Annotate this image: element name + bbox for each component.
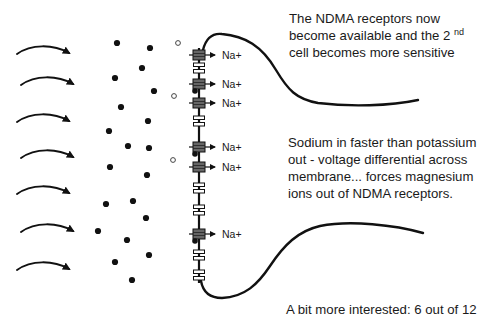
sodium-ion-dot	[124, 237, 130, 243]
sodium-ion-dot	[114, 40, 120, 46]
potassium-ion-circle	[176, 41, 181, 46]
note-top-line-2: become available and the 2 nd	[289, 27, 464, 44]
magnesium-ion-circles	[171, 41, 181, 163]
inflow-arrow-icon	[17, 46, 69, 54]
magnesium-ion-dot	[192, 88, 198, 94]
inflow-arrow-icon	[21, 224, 73, 232]
note-middle-line-2: out - voltage differential across	[288, 151, 476, 168]
note-top-line-2-text: become available and the 2	[289, 28, 454, 43]
ion-dots	[95, 40, 157, 283]
magnesium-ion-dot	[192, 238, 198, 244]
sodium-ion-dot	[145, 118, 151, 124]
ordinal-suffix: nd	[454, 27, 464, 37]
open-channel: Na+	[189, 97, 242, 109]
sodium-label: Na+	[222, 228, 242, 240]
note-top-line-1: The NDMA receptors now	[289, 10, 464, 27]
membrane-channels: Na+Na+Na+Na+Na+Na+	[189, 49, 242, 280]
note-bottom-line-1: A bit more interested: 6 out of 12	[286, 301, 477, 318]
sodium-ion-dot	[129, 277, 135, 283]
inflow-arrows	[17, 46, 73, 270]
potassium-ion-circle	[172, 94, 177, 99]
sodium-label: Na+	[222, 141, 242, 153]
inflow-arrow-icon	[17, 262, 69, 270]
sodium-ion-dot	[103, 201, 109, 207]
note-ndma-available: The NDMA receptors now become available …	[289, 10, 464, 61]
sodium-label: Na+	[222, 97, 242, 109]
sodium-ion-dot	[95, 228, 101, 234]
note-sodium-voltage: Sodium in faster than potassium out - vo…	[288, 134, 476, 202]
sodium-label: Na+	[222, 161, 242, 173]
sodium-ion-dot	[118, 104, 124, 110]
open-channel: Na+	[189, 161, 242, 173]
sodium-ion-dot	[130, 198, 136, 204]
sodium-ion-dot	[144, 172, 150, 178]
sodium-ion-dot	[146, 252, 152, 258]
open-channel: Na+	[189, 228, 242, 244]
sodium-ion-dot	[107, 164, 113, 170]
note-middle-line-4: ions out of NDMA receptors.	[288, 185, 476, 202]
sodium-label: Na+	[222, 78, 242, 90]
sodium-label: Na+	[222, 49, 242, 61]
inflow-arrow-icon	[21, 77, 73, 85]
sodium-ion-dot	[147, 45, 153, 51]
inflow-arrow-icon	[17, 114, 69, 122]
sodium-ion-dot	[151, 88, 157, 94]
sodium-ion-dot	[143, 215, 149, 221]
inflow-arrow-icon	[17, 186, 69, 194]
magnesium-ion-dot	[192, 151, 198, 157]
sodium-ion-dot	[125, 143, 131, 149]
sodium-ion-dot	[106, 128, 112, 134]
note-middle-line-3: membrane... forces magnesium	[288, 168, 476, 185]
open-channel: Na+	[189, 141, 242, 157]
sodium-ion-dot	[112, 75, 118, 81]
potassium-ion-circle	[171, 158, 176, 163]
note-interest-count: A bit more interested: 6 out of 12	[286, 301, 477, 318]
inflow-arrow-icon	[21, 150, 73, 158]
note-top-line-3: cell becomes more sensitive	[289, 44, 464, 61]
sodium-ion-dot	[139, 65, 145, 71]
sodium-ion-dot	[112, 259, 118, 265]
note-middle-line-1: Sodium in faster than potassium	[288, 134, 476, 151]
open-channel: Na+	[189, 49, 242, 61]
sodium-ion-dot	[146, 145, 152, 151]
open-channel: Na+	[189, 78, 242, 94]
